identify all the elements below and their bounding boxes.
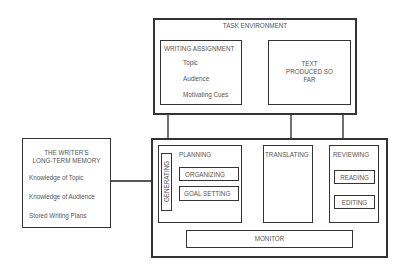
reviewing-title: REVIEWING [333,151,369,158]
task-environment-title: TASK ENVIRONMENT [153,22,357,29]
ltm-item-stored-plans: Stored Writing Plans [29,212,86,219]
long-term-memory-title-line1: THE WRITER'S [22,149,111,156]
reading-label: READING [334,174,375,181]
long-term-memory-title-line2: LONG-TERM MEMORY [22,157,111,164]
writing-assignment-title: WRITING ASSIGNMENT [164,45,234,52]
goal-setting-label: GOAL SETTING [184,190,230,197]
text-produced-line1: TEXT [268,60,351,67]
writing-assignment-item-audience: Audience [183,75,209,82]
text-produced-line2: PRODUCED SO [268,68,351,75]
translating-title: TRANSLATING [265,151,309,158]
planning-title: PLANNING [179,151,211,158]
ltm-item-knowledge-audience: Knowledge of Audience [29,193,95,200]
editing-label: EDITING [334,199,375,206]
monitor-label: MONITOR [186,235,353,242]
text-produced-line3: FAR [268,76,351,83]
organizing-label: ORGANIZING [185,171,225,178]
ltm-item-knowledge-topic: Knowledge of Topic [29,174,84,181]
generating-label: GENERATING [163,152,170,212]
writing-assignment-item-topic: Topic [183,59,198,66]
writing-assignment-item-motivating-cues: Motivating Cues [183,91,228,98]
